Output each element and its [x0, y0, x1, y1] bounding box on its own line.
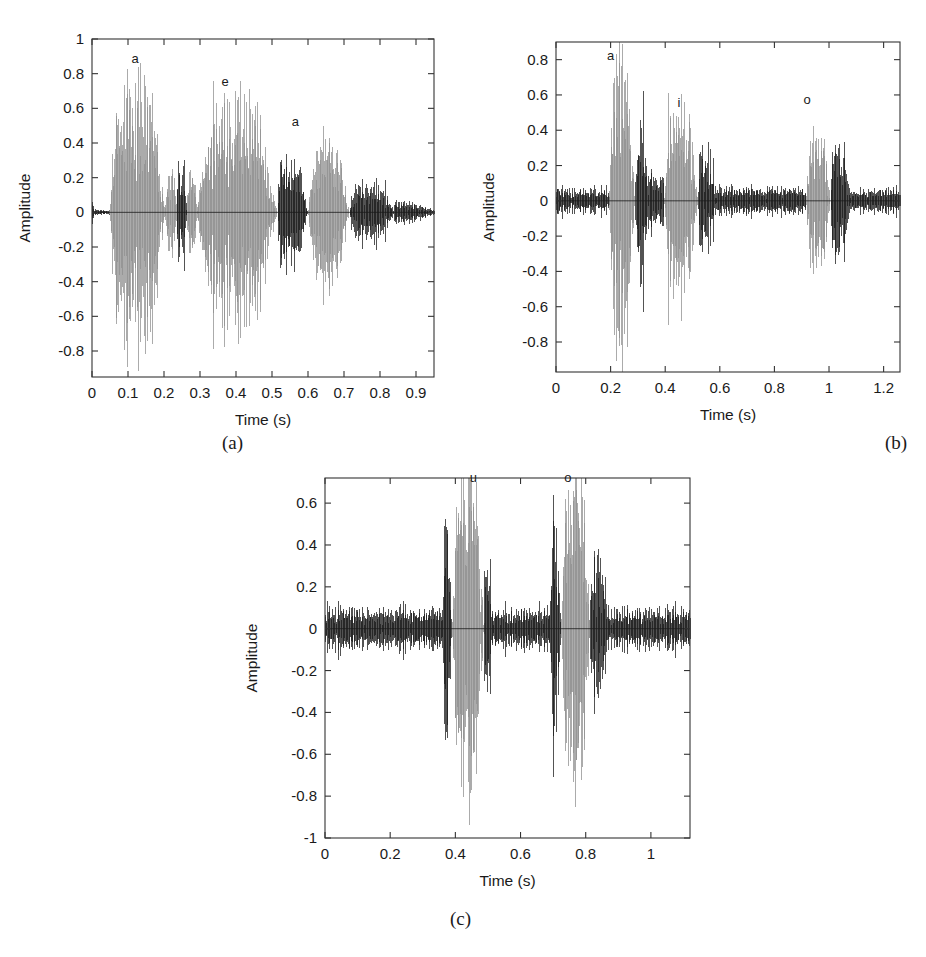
waveform-trace [325, 478, 690, 825]
vowel-label-e: e [222, 74, 229, 89]
y-tick-label: -0.6 [58, 307, 84, 324]
waveform-segment-noise-0 [325, 601, 442, 659]
waveform-trace [92, 63, 434, 372]
x-tick-label: 1 [647, 845, 655, 862]
x-tick-label: 0.6 [510, 845, 531, 862]
waveform-segment-vowel-a-7 [308, 126, 349, 305]
waveform-segment-consonant-8 [349, 178, 394, 250]
waveform-segment-vowel-a-1 [609, 42, 635, 372]
y-tick-label: 0 [309, 620, 317, 637]
vowel-label-u: u [470, 470, 477, 485]
y-axis-title: Amplitude [480, 173, 497, 242]
x-tick-label: 1 [825, 379, 833, 396]
y-tick-label: -0.4 [522, 262, 548, 279]
x-tick-label: 0 [552, 379, 560, 396]
panel-caption-b: (b) [885, 432, 907, 454]
y-tick-label: 0.4 [296, 536, 317, 553]
y-tick-label: -0.2 [522, 227, 548, 244]
y-tick-label: 0.8 [527, 51, 548, 68]
y-tick-label: 0.6 [527, 86, 548, 103]
vowel-label-o: o [564, 470, 571, 485]
y-tick-label: 1 [76, 30, 84, 47]
x-tick-label: 0.2 [154, 384, 175, 401]
x-tick-label: 0.8 [370, 384, 391, 401]
waveform-trace [556, 42, 900, 372]
panel-c: 00.20.40.60.810.60.40.20-0.2-0.4-0.6-0.8… [215, 462, 715, 902]
y-axis-title: Amplitude [243, 624, 260, 693]
panel-b: 00.20.40.60.811.20.80.60.40.20-0.2-0.4-0… [464, 8, 926, 428]
x-tick-label: 1.2 [873, 379, 894, 396]
waveform-plot-b: 00.20.40.60.811.20.80.60.40.20-0.2-0.4-0… [464, 8, 926, 428]
vowel-annotations: aea [132, 51, 300, 128]
vowel-label-a: a [132, 51, 140, 66]
waveform-segment-vowel-a-1 [109, 63, 166, 372]
waveform-plot-c: 00.20.40.60.810.60.40.20-0.2-0.4-0.6-0.8… [215, 462, 715, 902]
waveform-segment-noise-6 [716, 184, 806, 219]
waveform-segment-noise-9 [851, 185, 900, 218]
vowel-label-a: a [607, 48, 615, 63]
waveform-segment-noise-3 [649, 169, 664, 237]
x-tick-label: 0.8 [575, 845, 596, 862]
figure-root: 00.10.20.30.40.50.60.70.80.910.80.60.40.… [0, 0, 926, 957]
waveform-segment-offset-3 [485, 559, 495, 695]
waveform-segment-noise-0 [556, 185, 609, 219]
axis-ticks: 00.20.40.60.810.60.40.20-0.2-0.4-0.6-0.8… [291, 478, 690, 862]
waveform-segment-consonant-5 [698, 142, 716, 253]
waveform-segment-consonant-6 [277, 154, 308, 274]
panel-a: 00.10.20.30.40.50.60.70.80.910.80.60.40.… [0, 8, 462, 428]
x-tick-label: 0.4 [445, 845, 466, 862]
panel-caption-a: (a) [222, 432, 243, 454]
waveform-segment-onset-1 [442, 519, 452, 740]
x-tick-label: 0 [321, 845, 329, 862]
y-tick-label: 0.4 [63, 134, 84, 151]
waveform-segment-consonant-8 [830, 142, 850, 264]
x-axis-title: Time (s) [235, 411, 291, 428]
y-tick-label: 0.2 [527, 157, 548, 174]
waveform-segment-onset-5 [550, 495, 561, 777]
x-axis-title: Time (s) [700, 406, 756, 423]
y-axis-title: Amplitude [16, 174, 33, 243]
waveform-plot-a: 00.10.20.30.40.50.60.70.80.910.80.60.40.… [0, 8, 462, 428]
y-tick-label: -0.4 [58, 273, 84, 290]
y-tick-label: -1 [304, 829, 317, 846]
vowel-label-a: a [292, 114, 300, 129]
waveform-segment-vowel-e-5 [196, 81, 277, 350]
y-tick-label: 0.8 [63, 65, 84, 82]
waveform-segment-vowel-i-4 [664, 93, 698, 325]
panel-caption-c: (c) [450, 908, 471, 930]
y-tick-label: -0.8 [522, 333, 548, 350]
waveform-segment-vowel-u-2 [452, 478, 485, 825]
waveform-segment-transition-4 [187, 170, 196, 254]
y-tick-label: 0 [76, 203, 84, 220]
vowel-label-o: o [804, 92, 811, 107]
waveform-segment-consonant-3 [177, 160, 188, 271]
x-tick-label: 0.3 [190, 384, 211, 401]
waveform-segment-vowel-o-7 [806, 126, 831, 274]
x-tick-label: 0.6 [298, 384, 319, 401]
waveform-segment-consonant-2 [635, 91, 649, 312]
waveform-segment-offset-7 [591, 549, 612, 715]
waveform-segment-vowel-o-6 [561, 478, 590, 807]
x-tick-label: 0.4 [226, 384, 247, 401]
x-tick-label: 0.1 [118, 384, 139, 401]
x-tick-label: 0.4 [655, 379, 676, 396]
waveform-segment-noise-8 [612, 601, 690, 658]
y-tick-label: 0.6 [63, 99, 84, 116]
y-tick-label: 0.2 [63, 169, 84, 186]
y-tick-label: -0.6 [291, 745, 317, 762]
x-tick-label: 0 [88, 384, 96, 401]
x-tick-label: 0.5 [262, 384, 283, 401]
x-tick-label: 0.8 [764, 379, 785, 396]
y-tick-label: -0.2 [58, 238, 84, 255]
waveform-segment-silence-0 [92, 202, 109, 224]
y-tick-label: 0 [540, 192, 548, 209]
plot-box [325, 478, 690, 838]
vowel-annotations: aio [607, 48, 811, 111]
x-tick-label: 0.2 [380, 845, 401, 862]
x-axis-title: Time (s) [479, 872, 535, 889]
x-tick-label: 0.2 [600, 379, 621, 396]
y-tick-label: -0.8 [291, 787, 317, 804]
y-tick-label: 0.2 [296, 578, 317, 595]
y-tick-label: -0.8 [58, 342, 84, 359]
y-tick-label: 0.4 [527, 121, 548, 138]
